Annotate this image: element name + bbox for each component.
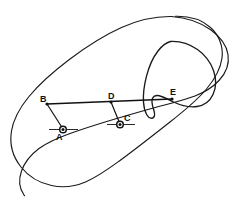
geometric-diagram: B A D C E <box>0 0 236 205</box>
label-point-c: C <box>124 113 131 123</box>
label-point-e: E <box>170 87 176 97</box>
label-point-d: D <box>108 91 115 101</box>
marker-a-center <box>62 128 65 131</box>
node-point-e <box>170 97 173 100</box>
label-point-a: A <box>56 132 63 142</box>
diagram-canvas: B A D C E <box>0 0 236 205</box>
label-point-b: B <box>40 94 47 104</box>
offset-line-b-to-a <box>47 104 63 129</box>
marker-c-center <box>119 123 122 126</box>
inner-region-path <box>143 41 215 118</box>
